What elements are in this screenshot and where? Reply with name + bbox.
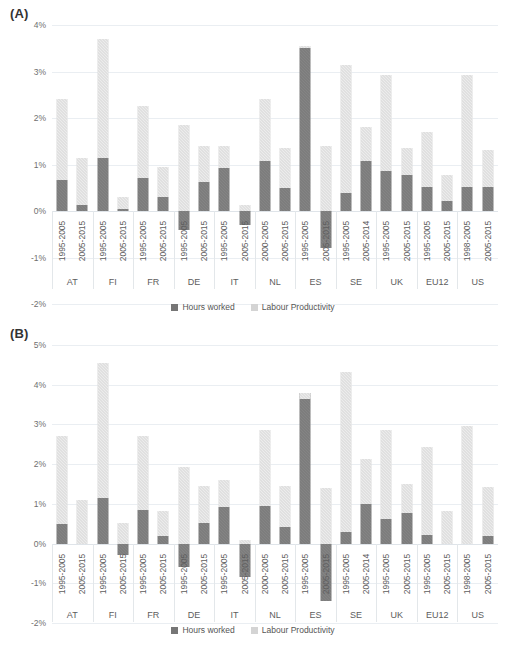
x-axis-country-cell: FI xyxy=(93,271,134,289)
x-axis-country-label: FI xyxy=(109,610,117,620)
bar-segment-hours-worked[interactable] xyxy=(138,510,149,544)
bar-segment-hours-worked[interactable] xyxy=(280,188,291,211)
bar-segment-hours-worked[interactable] xyxy=(97,158,108,211)
bar-segment-labour-productivity[interactable] xyxy=(57,436,68,524)
bar-segment-labour-productivity[interactable] xyxy=(280,486,291,527)
bar-segment-labour-productivity[interactable] xyxy=(442,175,453,201)
bar-segment-hours-worked[interactable] xyxy=(442,201,453,211)
bar-segment-hours-worked[interactable] xyxy=(421,535,432,544)
bar-segment-hours-worked[interactable] xyxy=(340,532,351,544)
x-axis-country-cell: FR xyxy=(133,271,174,289)
bar-segment-labour-productivity[interactable] xyxy=(198,486,209,523)
bar-segment-hours-worked[interactable] xyxy=(198,523,209,544)
bar-segment-hours-worked[interactable] xyxy=(381,171,392,211)
bar-segment-labour-productivity[interactable] xyxy=(77,500,88,544)
bar-segment-labour-productivity[interactable] xyxy=(97,39,108,158)
bar-segment-hours-worked[interactable] xyxy=(361,504,372,544)
bar-segment-labour-productivity[interactable] xyxy=(482,150,493,187)
bar-segment-labour-productivity[interactable] xyxy=(280,148,291,188)
bar-segment-hours-worked[interactable] xyxy=(401,175,412,211)
bar-segment-labour-productivity[interactable] xyxy=(259,430,270,505)
bar-segment-labour-productivity[interactable] xyxy=(178,125,189,211)
bar-segment-labour-productivity[interactable] xyxy=(381,430,392,519)
panel-b-legend: Hours worked Labour Productivity xyxy=(0,625,506,635)
bar-segment-hours-worked[interactable] xyxy=(421,187,432,211)
x-axis-period-cell: 1998-2005 xyxy=(457,211,477,271)
x-axis-country-cell: UK xyxy=(376,271,417,289)
bar-segment-hours-worked[interactable] xyxy=(300,393,311,544)
x-axis-period-label: 2005-2015 xyxy=(402,221,412,262)
bar-segment-labour-productivity[interactable] xyxy=(57,99,68,179)
x-axis-period-cell: 1995-2005 xyxy=(93,544,113,604)
bar-segment-labour-productivity[interactable] xyxy=(401,484,412,513)
x-axis-period-cell: 1995-2005 xyxy=(174,544,194,604)
bar-segment-labour-productivity[interactable] xyxy=(198,146,209,182)
bar-segment-labour-productivity[interactable] xyxy=(340,372,351,532)
bar-segment-hours-worked[interactable] xyxy=(158,536,169,544)
bar-segment-labour-productivity[interactable] xyxy=(361,127,372,160)
x-axis-period-label: 2005-2015 xyxy=(321,221,331,262)
y-axis-tick-label: 4% xyxy=(34,380,46,390)
x-axis-country-cell: NL xyxy=(255,604,296,622)
bar-segment-labour-productivity[interactable] xyxy=(77,158,88,206)
bar-segment-hours-worked[interactable] xyxy=(300,48,311,211)
bar-segment-labour-productivity[interactable] xyxy=(117,197,128,209)
x-axis-country-label: NL xyxy=(269,277,281,287)
bar-segment-hours-worked[interactable] xyxy=(340,193,351,211)
x-axis-period-label: 2005-2015 xyxy=(280,553,290,594)
y-axis-tick-label: 1% xyxy=(34,499,46,509)
bar-segment-labour-productivity[interactable] xyxy=(219,480,230,507)
bar-segment-hours-worked[interactable] xyxy=(482,536,493,543)
bar-segment-hours-worked[interactable] xyxy=(219,168,230,211)
bar-segment-hours-worked[interactable] xyxy=(381,519,392,544)
bar-segment-labour-productivity[interactable] xyxy=(320,146,331,211)
bar-segment-labour-productivity[interactable] xyxy=(482,487,493,537)
bar-segment-labour-productivity[interactable] xyxy=(219,146,230,168)
x-axis-country-label: AT xyxy=(67,277,78,287)
x-axis-country-label: NL xyxy=(269,610,281,620)
bar-segment-labour-productivity[interactable] xyxy=(421,132,432,187)
bar-segment-labour-productivity[interactable] xyxy=(259,99,270,160)
y-axis-tick-label: 1% xyxy=(34,160,46,170)
bar-segment-labour-productivity[interactable] xyxy=(300,393,311,399)
bar-segment-hours-worked[interactable] xyxy=(401,513,412,544)
panel-a-period-labels: 1995-20052005-20151995-20052005-20151995… xyxy=(52,211,498,271)
bar-segment-labour-productivity[interactable] xyxy=(381,75,392,172)
bar-segment-labour-productivity[interactable] xyxy=(320,488,331,544)
bar-segment-labour-productivity[interactable] xyxy=(158,511,169,536)
bar-segment-labour-productivity[interactable] xyxy=(462,75,473,187)
bar-segment-labour-productivity[interactable] xyxy=(158,167,169,197)
bar-segment-hours-worked[interactable] xyxy=(158,197,169,211)
bar-segment-labour-productivity[interactable] xyxy=(300,46,311,48)
bar-segment-labour-productivity[interactable] xyxy=(138,436,149,510)
x-axis-country-label: FR xyxy=(147,277,159,287)
bar-segment-labour-productivity[interactable] xyxy=(97,363,108,498)
bar-segment-hours-worked[interactable] xyxy=(198,182,209,211)
bar-segment-hours-worked[interactable] xyxy=(138,178,149,211)
bar-segment-labour-productivity[interactable] xyxy=(361,459,372,503)
bar-segment-hours-worked[interactable] xyxy=(57,524,68,544)
bar-segment-hours-worked[interactable] xyxy=(259,506,270,544)
legend-swatch-labour-productivity xyxy=(251,627,258,634)
bar-segment-labour-productivity[interactable] xyxy=(401,148,412,175)
bar-segment-hours-worked[interactable] xyxy=(219,507,230,544)
y-axis-tick-label: 0% xyxy=(34,206,46,216)
bar-segment-labour-productivity[interactable] xyxy=(442,511,453,544)
bar-segment-hours-worked[interactable] xyxy=(97,498,108,544)
bar-segment-hours-worked[interactable] xyxy=(482,187,493,211)
bar-segment-hours-worked[interactable] xyxy=(57,180,68,211)
bar-segment-hours-worked[interactable] xyxy=(462,187,473,211)
bar-segment-labour-productivity[interactable] xyxy=(421,447,432,535)
bar-segment-labour-productivity[interactable] xyxy=(462,426,473,543)
legend-item-labour-productivity: Labour Productivity xyxy=(251,625,335,635)
bar-segment-labour-productivity[interactable] xyxy=(178,467,189,543)
y-axis-tick-label: -1% xyxy=(31,578,46,588)
panel-b: (B) -2%-1%0%1%2%3%4%5% 1995-20052005-201… xyxy=(0,320,506,650)
bar-segment-labour-productivity[interactable] xyxy=(340,65,351,193)
bar-segment-hours-worked[interactable] xyxy=(259,161,270,211)
bar-segment-labour-productivity[interactable] xyxy=(138,106,149,178)
bar-segment-hours-worked[interactable] xyxy=(361,161,372,211)
bar-segment-labour-productivity[interactable] xyxy=(117,523,128,544)
panel-a-y-axis: -2%-1%0%1%2%3%4% xyxy=(0,25,52,304)
bar-segment-hours-worked[interactable] xyxy=(280,527,291,544)
